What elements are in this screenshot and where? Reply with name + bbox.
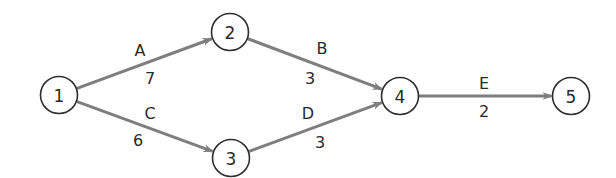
node-label: 5 [566,87,577,107]
duration-label-a: 7 [145,69,155,88]
node-2: 2 [212,14,249,51]
duration-label-e: 2 [479,102,489,121]
activity-label-e: E [479,74,489,93]
activity-label-c: C [144,104,155,123]
node-3: 3 [213,140,250,177]
node-label: 4 [395,87,406,107]
node-5: 5 [553,78,590,115]
node-label: 2 [225,23,236,43]
node-4: 4 [382,78,419,115]
network-diagram: 12345 A7C6B3D3E2 [0,0,616,178]
activity-label-b: B [317,39,328,58]
node-label: 3 [226,149,237,169]
duration-label-b: 3 [305,69,315,88]
activity-label-d: D [302,104,314,123]
duration-label-d: 3 [315,133,325,152]
duration-label-c: 6 [133,131,143,150]
activity-label-a: A [135,41,146,60]
node-label: 1 [54,86,65,106]
node-1: 1 [41,77,78,114]
